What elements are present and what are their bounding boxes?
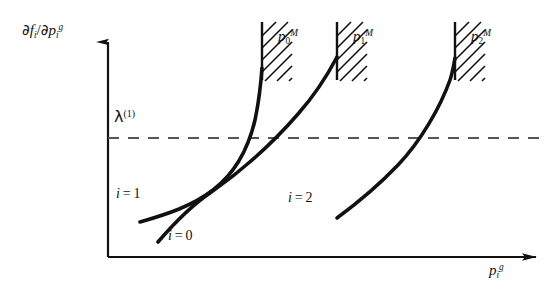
- curve-label-i-2-value: 2: [305, 190, 312, 205]
- curve-label-i-2-eq: =: [292, 190, 306, 205]
- wall-2-label: p2M: [471, 28, 491, 44]
- y-axis-label-p: p: [48, 22, 56, 38]
- wall-0-label: p0M: [278, 28, 298, 44]
- y-axis-label: ∂fi/∂pig: [22, 22, 63, 38]
- wall-2-label-base: p: [471, 28, 479, 44]
- curve-label-i-0-eq: =: [172, 228, 186, 243]
- curve-label-i-1: i = 1: [116, 186, 140, 201]
- y-axis-label-p-superscript: g: [59, 22, 64, 32]
- curve-label-i-0: i = 0: [168, 228, 192, 243]
- wall-0-label-base: p: [278, 28, 286, 44]
- curve-label-i-1-eq: =: [120, 186, 134, 201]
- figure-container: ∂fi/∂pig pig λ(1) p0M p1M p2M i = 1 i = …: [0, 0, 554, 305]
- x-axis-label-superscript: g: [499, 262, 504, 272]
- curve-label-i-1-value: 1: [133, 186, 140, 201]
- figure-canvas: [0, 0, 554, 305]
- wall-1-label-base: p: [353, 28, 361, 44]
- curve-label-i-2: i = 2: [288, 190, 312, 205]
- wall-2-label-superscript: M: [483, 28, 491, 38]
- lambda-superscript: (1): [123, 108, 135, 119]
- curve-label-i-0-value: 0: [185, 228, 192, 243]
- curve-i-0: [158, 57, 337, 242]
- wall-1-label: p1M: [353, 28, 373, 44]
- x-axis-label-p: p: [489, 262, 497, 278]
- y-axis-label-partial-1: ∂: [22, 21, 30, 39]
- x-axis-label: pig: [489, 262, 504, 278]
- wall-1-label-superscript: M: [365, 28, 373, 38]
- wall-0-label-superscript: M: [290, 28, 298, 38]
- lambda-threshold-label: λ(1): [114, 109, 135, 125]
